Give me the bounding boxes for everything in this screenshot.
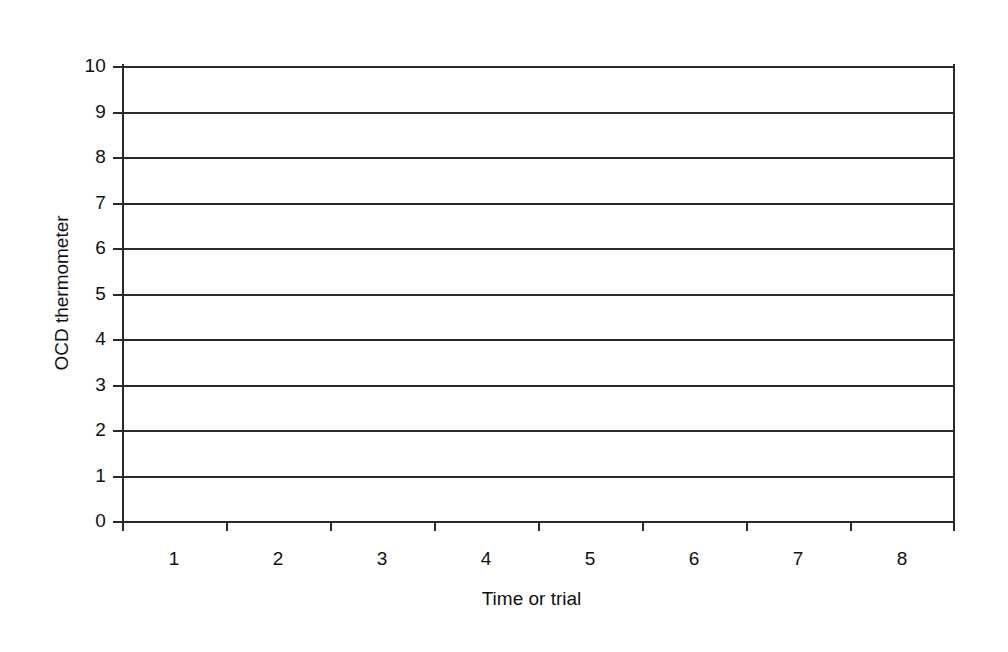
x-tick-mark-4 bbox=[538, 521, 540, 531]
x-tick-mark-8 bbox=[953, 521, 955, 531]
gridline-4 bbox=[122, 339, 955, 341]
x-tick-label-6: 6 bbox=[664, 548, 724, 570]
y-tick-mark-4 bbox=[113, 339, 122, 341]
x-tick-label-7: 7 bbox=[768, 548, 828, 570]
x-axis-title: Time or trial bbox=[0, 588, 1008, 610]
gridline-8 bbox=[122, 157, 955, 159]
gridline-5 bbox=[122, 294, 955, 296]
x-tick-mark-0 bbox=[122, 521, 124, 531]
y-axis-title: OCD thermometer bbox=[51, 143, 73, 443]
x-tick-mark-5 bbox=[642, 521, 644, 531]
y-tick-mark-3 bbox=[113, 385, 122, 387]
y-tick-label-9: 9 bbox=[60, 102, 106, 121]
y-tick-mark-9 bbox=[113, 112, 122, 114]
x-axis-title-text: Time or trial bbox=[482, 588, 582, 610]
gridline-10 bbox=[122, 66, 955, 68]
y-axis-spine bbox=[122, 64, 124, 523]
x-tick-label-3: 3 bbox=[352, 548, 412, 570]
x-tick-label-5: 5 bbox=[560, 548, 620, 570]
y-tick-mark-7 bbox=[113, 203, 122, 205]
y-tick-label-1: 1 bbox=[60, 466, 106, 485]
x-tick-label-4: 4 bbox=[456, 548, 516, 570]
y-tick-mark-0 bbox=[113, 521, 122, 523]
y-tick-mark-1 bbox=[113, 476, 122, 478]
x-tick-mark-1 bbox=[226, 521, 228, 531]
y-tick-mark-5 bbox=[113, 294, 122, 296]
y-tick-mark-2 bbox=[113, 430, 122, 432]
gridline-3 bbox=[122, 385, 955, 387]
x-tick-label-8: 8 bbox=[872, 548, 932, 570]
y-tick-mark-6 bbox=[113, 248, 122, 250]
gridline-9 bbox=[122, 112, 955, 114]
plot-right-border bbox=[953, 64, 955, 523]
y-tick-label-10: 10 bbox=[60, 56, 106, 75]
x-tick-label-2: 2 bbox=[248, 548, 308, 570]
y-tick-label-0: 0 bbox=[60, 511, 106, 530]
gridline-2 bbox=[122, 430, 955, 432]
x-tick-mark-6 bbox=[746, 521, 748, 531]
plot-area bbox=[122, 66, 955, 521]
x-tick-label-1: 1 bbox=[144, 548, 204, 570]
gridline-1 bbox=[122, 476, 955, 478]
gridline-6 bbox=[122, 248, 955, 250]
y-tick-mark-10 bbox=[113, 66, 122, 68]
x-tick-mark-3 bbox=[434, 521, 436, 531]
x-tick-mark-2 bbox=[330, 521, 332, 531]
gridline-7 bbox=[122, 203, 955, 205]
y-tick-mark-8 bbox=[113, 157, 122, 159]
chart-figure: 10 9 8 7 6 5 4 3 2 1 0 1 2 3 4 5 6 7 8 T… bbox=[0, 0, 1008, 652]
x-tick-mark-7 bbox=[850, 521, 852, 531]
